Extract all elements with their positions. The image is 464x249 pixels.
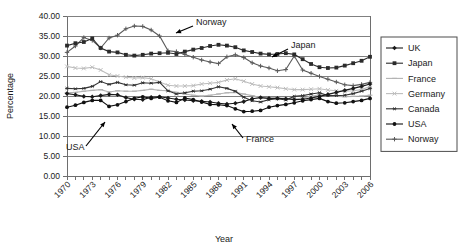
x-tick-label: 2006 bbox=[355, 179, 376, 200]
data-point bbox=[149, 82, 153, 85]
data-point bbox=[259, 109, 263, 113]
data-point bbox=[267, 105, 271, 109]
legend-label: Japan bbox=[408, 58, 433, 68]
data-point bbox=[90, 85, 94, 88]
data-point bbox=[65, 105, 69, 109]
x-tick-label: 1979 bbox=[128, 179, 149, 200]
y-tick-label: 25.00 bbox=[39, 71, 61, 81]
y-tick-label: 30.00 bbox=[39, 51, 61, 61]
data-point bbox=[334, 80, 338, 84]
legend-label: France bbox=[408, 74, 436, 84]
data-point bbox=[82, 87, 86, 90]
x-tick-label: 1994 bbox=[254, 179, 275, 200]
data-point bbox=[99, 46, 103, 50]
annotation-label-norway: Norway bbox=[196, 17, 227, 27]
y-axis-title: Percentage bbox=[5, 73, 15, 119]
legend-label: Canada bbox=[408, 104, 440, 114]
data-point bbox=[267, 53, 271, 57]
data-point bbox=[301, 94, 305, 97]
data-point bbox=[99, 80, 103, 83]
x-tick-label: 2000 bbox=[304, 179, 325, 200]
legend-label: Norway bbox=[408, 134, 439, 144]
data-point bbox=[250, 50, 254, 54]
data-point bbox=[98, 93, 103, 98]
x-tick-label: 1973 bbox=[77, 179, 98, 200]
data-point bbox=[149, 52, 153, 56]
y-tick-label: 20.00 bbox=[39, 91, 61, 101]
data-point bbox=[225, 104, 229, 108]
data-point bbox=[166, 99, 170, 103]
data-point bbox=[199, 58, 203, 62]
data-point bbox=[326, 100, 330, 104]
series-layer bbox=[65, 24, 373, 114]
data-point bbox=[233, 107, 237, 111]
data-point bbox=[191, 98, 195, 102]
x-axis-title: Year bbox=[215, 234, 233, 244]
data-point bbox=[141, 81, 145, 84]
data-point bbox=[132, 97, 136, 101]
data-point bbox=[368, 55, 372, 59]
data-point bbox=[225, 87, 229, 90]
x-tick-label: 1997 bbox=[279, 179, 300, 200]
data-point bbox=[74, 41, 78, 45]
data-point bbox=[284, 103, 288, 107]
line-chart: 0.005.0010.0015.0020.0025.0030.0035.0040… bbox=[0, 0, 464, 249]
data-point bbox=[393, 122, 397, 126]
data-point bbox=[360, 59, 364, 63]
data-point bbox=[208, 88, 212, 91]
data-point bbox=[191, 90, 195, 93]
gridlines bbox=[67, 16, 370, 176]
data-point bbox=[276, 104, 280, 108]
data-point bbox=[132, 24, 136, 28]
data-point bbox=[318, 65, 322, 69]
x-tick-label: 1976 bbox=[102, 179, 123, 200]
data-point bbox=[141, 24, 145, 28]
data-point bbox=[217, 43, 221, 47]
data-point bbox=[334, 66, 338, 70]
chart-root: 0.005.0010.0015.0020.0025.0030.0035.0040… bbox=[0, 0, 464, 249]
data-point bbox=[124, 53, 128, 57]
data-point bbox=[183, 96, 187, 100]
data-point bbox=[309, 71, 313, 75]
data-point bbox=[284, 51, 288, 55]
data-point bbox=[309, 98, 313, 102]
data-point bbox=[99, 99, 103, 103]
x-tick-label: 1982 bbox=[153, 179, 174, 200]
data-point bbox=[90, 95, 95, 100]
data-point bbox=[326, 77, 330, 81]
data-point bbox=[258, 64, 262, 68]
data-point bbox=[183, 50, 187, 54]
data-point bbox=[351, 86, 356, 91]
data-point bbox=[309, 93, 313, 96]
data-point bbox=[233, 101, 238, 106]
data-point bbox=[166, 89, 170, 92]
data-point bbox=[175, 93, 179, 96]
data-point bbox=[275, 96, 280, 101]
data-point bbox=[259, 101, 263, 104]
data-point bbox=[65, 91, 70, 96]
data-point bbox=[242, 110, 246, 114]
y-tick-label: 40.00 bbox=[39, 11, 61, 21]
data-point bbox=[368, 97, 372, 101]
data-point bbox=[208, 60, 212, 64]
data-point bbox=[342, 88, 347, 93]
data-point bbox=[141, 53, 145, 57]
data-point bbox=[250, 109, 254, 113]
data-point bbox=[107, 50, 111, 54]
series-usa bbox=[65, 95, 372, 114]
data-point bbox=[132, 54, 136, 58]
annotation-label-usa: USA bbox=[66, 142, 85, 152]
data-point bbox=[82, 101, 86, 105]
data-point bbox=[175, 52, 179, 56]
y-tick-label: 0.00 bbox=[43, 171, 60, 181]
data-point bbox=[393, 61, 397, 65]
data-point bbox=[124, 100, 128, 104]
data-point bbox=[90, 37, 94, 41]
x-tick-marks bbox=[67, 176, 370, 180]
data-point bbox=[217, 103, 221, 107]
data-point bbox=[309, 62, 313, 66]
data-point bbox=[217, 85, 221, 88]
data-point bbox=[132, 84, 136, 87]
data-point bbox=[208, 103, 212, 107]
data-point bbox=[259, 52, 263, 56]
